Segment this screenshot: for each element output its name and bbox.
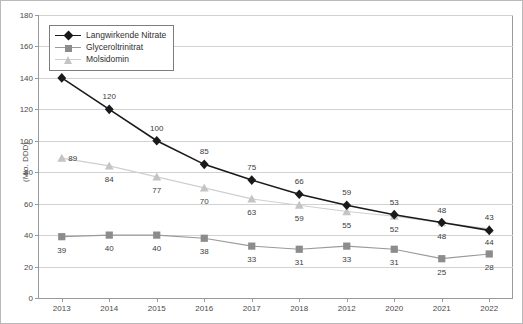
data-point-label: 31	[390, 258, 399, 267]
series-marker	[295, 189, 304, 199]
legend-key-diamond-icon	[55, 31, 81, 40]
series-line	[62, 158, 490, 229]
data-point-label: 40	[152, 244, 161, 253]
legend-label: Molsidomin	[86, 55, 129, 64]
x-tick-mark	[157, 298, 158, 302]
y-tick-label: 40	[24, 231, 33, 240]
series-marker	[486, 250, 493, 257]
data-point-label: 48	[437, 205, 446, 214]
series-marker	[57, 154, 66, 162]
x-tick-mark	[347, 298, 348, 302]
x-tick-label: 2020	[385, 304, 403, 313]
x-tick-mark	[299, 298, 300, 302]
data-point-label: 55	[342, 220, 351, 229]
legend-label: Langwirkende Nitrate	[86, 31, 166, 40]
series-line	[62, 235, 490, 259]
series-marker	[201, 235, 208, 242]
y-tick-label: 80	[24, 168, 33, 177]
series-marker	[106, 232, 113, 239]
series-marker	[343, 243, 350, 250]
series-marker	[342, 200, 351, 210]
series-marker	[152, 136, 161, 146]
legend-item-molsidomin[interactable]: Molsidomin	[55, 54, 166, 65]
data-point-label: 31	[295, 258, 304, 267]
x-tick-label: 2014	[100, 304, 118, 313]
series-marker	[247, 175, 256, 185]
x-tick-label: 2022	[480, 304, 498, 313]
data-point-label: 25	[437, 267, 446, 276]
data-point-label: 39	[57, 245, 66, 254]
series-marker	[391, 246, 398, 253]
x-tick-mark	[109, 298, 110, 302]
x-tick-label: 2021	[433, 304, 451, 313]
series-line	[62, 78, 490, 231]
data-point-label: 44	[485, 237, 494, 246]
data-point-label: 43	[485, 213, 494, 222]
x-tick-mark	[489, 298, 490, 302]
x-tick-mark	[394, 298, 395, 302]
x-tick-mark	[62, 298, 63, 302]
y-tick-label: 100	[20, 136, 33, 145]
x-tick-mark	[204, 298, 205, 302]
series-marker	[58, 233, 65, 240]
data-point-label: 63	[247, 207, 256, 216]
legend-key-triangle-icon	[55, 55, 81, 64]
data-point-label: 84	[105, 174, 114, 183]
y-tick-label: 120	[20, 105, 33, 114]
series-marker	[105, 105, 114, 115]
series-marker	[485, 226, 494, 236]
data-point-label: 85	[200, 147, 209, 156]
series-marker	[200, 160, 209, 170]
data-point-label: 100	[150, 123, 163, 132]
x-tick-label: 2018	[290, 304, 308, 313]
data-point-label: 48	[437, 231, 446, 240]
y-tick-mark	[35, 298, 39, 299]
legend-item-langwirkende-nitrate[interactable]: Langwirkende Nitrate	[55, 30, 166, 41]
data-point-label: 38	[200, 247, 209, 256]
x-tick-label: 2015	[148, 304, 166, 313]
data-point-label: 28	[485, 262, 494, 271]
data-point-label: 120	[103, 92, 116, 101]
x-tick-label: 2017	[243, 304, 261, 313]
x-tick-mark	[442, 298, 443, 302]
y-tick-label: 60	[24, 199, 33, 208]
data-point-label: 77	[152, 185, 161, 194]
series-marker	[153, 232, 160, 239]
x-tick-label: 2013	[53, 304, 71, 313]
chart-container: (Mio. DDD) 020406080100120140160180 2013…	[0, 0, 523, 324]
data-point-label: 53	[390, 197, 399, 206]
legend-label: Glyceroltrinitrat	[86, 43, 143, 52]
data-point-label: 33	[247, 255, 256, 264]
legend: Langwirkende Nitrate Glyceroltrinitrat M…	[49, 25, 174, 71]
data-point-label: 59	[342, 188, 351, 197]
y-tick-label: 0	[29, 294, 33, 303]
series-marker	[438, 255, 445, 262]
y-tick-label: 20	[24, 262, 33, 271]
data-point-label: 89	[68, 154, 77, 163]
y-tick-label: 180	[20, 11, 33, 20]
data-point-label: 52	[390, 225, 399, 234]
series-marker	[57, 73, 66, 83]
y-tick-label: 140	[20, 73, 33, 82]
x-tick-label: 2012	[338, 304, 356, 313]
y-tick-label: 160	[20, 42, 33, 51]
series-marker	[248, 243, 255, 250]
data-point-label: 70	[200, 196, 209, 205]
data-point-label: 75	[247, 163, 256, 172]
data-point-label: 33	[342, 255, 351, 264]
x-tick-mark	[252, 298, 253, 302]
data-point-label: 59	[295, 214, 304, 223]
data-point-label: 66	[295, 177, 304, 186]
series-marker	[296, 246, 303, 253]
data-point-label: 40	[105, 244, 114, 253]
x-tick-label: 2016	[195, 304, 213, 313]
legend-item-glyceroltrinitrat[interactable]: Glyceroltrinitrat	[55, 42, 166, 53]
legend-key-square-icon	[55, 43, 81, 52]
